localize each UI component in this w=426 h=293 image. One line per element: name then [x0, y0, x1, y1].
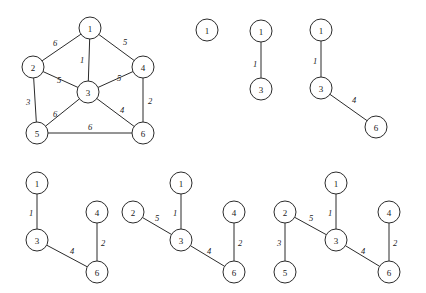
node-label: 3 — [319, 84, 324, 94]
graph-node: 2 — [274, 201, 296, 223]
edge-weight-label: 4 — [120, 105, 125, 115]
edge-weight-label: 3 — [276, 238, 281, 248]
graph-node: 3 — [250, 78, 272, 100]
graph-node: 5 — [274, 261, 296, 283]
node-label: 4 — [141, 63, 146, 73]
edge-weight-label: 5 — [57, 75, 61, 85]
graph-node: 5 — [26, 122, 48, 144]
node-label: 1 — [179, 179, 184, 189]
graph-node: 2 — [122, 201, 144, 223]
node-label: 3 — [259, 85, 264, 95]
edge-weight-label: 5 — [123, 37, 127, 47]
edge-weight-label: 2 — [101, 238, 106, 248]
node-label: 3 — [334, 236, 339, 246]
node-label: 1 — [334, 179, 339, 189]
node-label: 2 — [283, 208, 288, 218]
graph-edge — [99, 35, 134, 61]
graph-node: 3 — [310, 77, 332, 99]
node-label: 1 — [259, 27, 264, 37]
edge-weight-label: 1 — [313, 56, 317, 66]
edge-weight-label: 2 — [393, 238, 398, 248]
graph-edge — [98, 72, 133, 88]
mst-step-single-node: 1 — [196, 19, 218, 41]
mst-step-three-edges: 1421346 — [26, 172, 108, 283]
edge-weight-label: 1 — [80, 55, 84, 65]
graph-node: 1 — [250, 20, 272, 42]
graph-node: 3 — [26, 229, 48, 251]
graph-edge — [42, 34, 81, 61]
edge-weight-label: 4 — [361, 246, 366, 256]
graph-node: 4 — [378, 201, 400, 223]
edge-weight-label: 1 — [328, 208, 332, 218]
edge-weight-label: 4 — [70, 246, 75, 256]
edge-weight-label: 5 — [117, 73, 121, 83]
node-label: 6 — [141, 129, 146, 139]
mst-step-one-edge: 113 — [250, 20, 272, 100]
graph-node: 3 — [77, 81, 99, 103]
graph-edge — [330, 94, 367, 120]
node-label: 6 — [232, 268, 237, 278]
node-label: 6 — [95, 268, 100, 278]
edge-weight-label: 1 — [29, 208, 33, 218]
edge-weight-label: 3 — [25, 97, 30, 107]
graph-node: 3 — [170, 229, 192, 251]
node-label: 2 — [31, 63, 36, 73]
node-label: 6 — [387, 268, 392, 278]
graph-node: 4 — [132, 56, 154, 78]
node-label: 3 — [35, 236, 40, 246]
graph-node: 6 — [378, 261, 400, 283]
node-label: 1 — [35, 179, 40, 189]
edge-weight-label: 5 — [155, 213, 159, 223]
node-label: 4 — [387, 208, 392, 218]
edge-weight-label: 4 — [207, 246, 212, 256]
graph-node: 6 — [223, 261, 245, 283]
edge-weight-label: 2 — [148, 96, 153, 106]
graph-edge — [97, 99, 134, 127]
node-label: 1 — [205, 26, 210, 36]
edge-weight-label: 6 — [88, 122, 93, 132]
node-label: 1 — [319, 26, 324, 36]
edge-weight-label: 5 — [309, 213, 313, 223]
graph-node: 1 — [79, 17, 101, 39]
graph-edge — [46, 99, 80, 126]
graph-node: 1 — [26, 172, 48, 194]
graph-node: 1 — [325, 172, 347, 194]
graph-edge — [34, 78, 37, 122]
edge-weight-label: 1 — [173, 208, 177, 218]
mst-step-four-edges: 154212346 — [122, 172, 245, 283]
edge-weight-label: 2 — [238, 238, 243, 248]
node-label: 3 — [86, 88, 91, 98]
graph-node: 4 — [86, 201, 108, 223]
graph-node: 6 — [86, 261, 108, 283]
node-label: 2 — [131, 208, 136, 218]
graph-node: 1 — [170, 172, 192, 194]
edge-weight-label: 1 — [253, 59, 257, 69]
graph-node: 6 — [132, 122, 154, 144]
graph-node: 2 — [22, 56, 44, 78]
node-label: 4 — [95, 208, 100, 218]
graph-node: 4 — [223, 201, 245, 223]
node-label: 1 — [88, 24, 93, 34]
node-label: 5 — [283, 268, 288, 278]
edge-weight-label: 6 — [53, 38, 58, 48]
node-label: 5 — [35, 129, 40, 139]
mst-step-complete: 15342123456 — [274, 172, 400, 283]
graph-edge — [47, 245, 88, 267]
graph-node: 6 — [365, 116, 387, 138]
graph-panels-root: 6515536426123456111314136142134615421234… — [22, 17, 400, 283]
graph-figure-canvas: 6515536426123456111314136142134615421234… — [0, 0, 426, 293]
graph-node: 3 — [325, 229, 347, 251]
graph-node: 1 — [310, 19, 332, 41]
edge-weight-label: 6 — [53, 109, 58, 119]
graph-edge — [88, 39, 89, 81]
original-weighted-graph: 6515536426123456 — [22, 17, 154, 144]
node-label: 3 — [179, 236, 184, 246]
mst-step-two-edges: 14136 — [310, 19, 387, 138]
edge-weight-label: 4 — [352, 95, 357, 105]
graph-node: 1 — [196, 19, 218, 41]
node-label: 4 — [232, 208, 237, 218]
node-label: 6 — [374, 123, 379, 133]
